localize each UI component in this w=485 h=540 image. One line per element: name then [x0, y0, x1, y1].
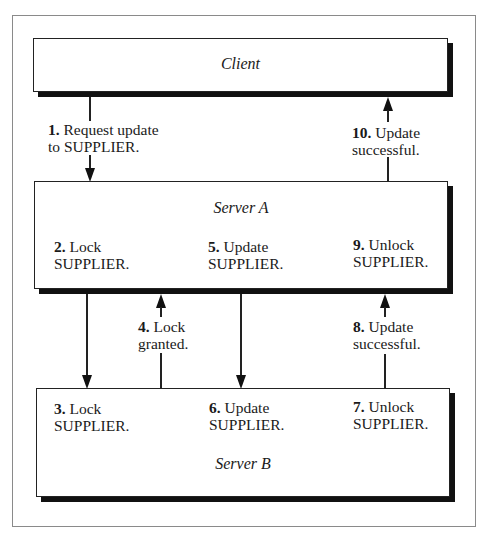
- server-a-step-5: 5. Update SUPPLIER.: [208, 238, 283, 272]
- edge-4-line-top: [160, 307, 162, 317]
- client-title: Client: [34, 55, 447, 73]
- edge-10-line-bottom: [387, 157, 389, 182]
- arrow-down-icon: [82, 375, 92, 389]
- arrow-up-icon: [380, 294, 390, 308]
- arrow-up-icon: [383, 97, 393, 111]
- server-b-step-7: 7. Unlock SUPPLIER.: [353, 398, 428, 432]
- edge-6-line: [240, 294, 242, 375]
- edge-8-line-top: [384, 307, 386, 317]
- edge-1-label: 1. Request update to SUPPLIER.: [48, 121, 159, 155]
- client-node: Client: [33, 38, 448, 92]
- arrow-up-icon: [156, 294, 166, 308]
- server-a-step-2: 2. Lock SUPPLIER.: [54, 238, 129, 272]
- server-b-step-3: 3. Lock SUPPLIER.: [54, 400, 129, 434]
- server-a-title: Server A: [35, 199, 447, 217]
- edge-4-line-bottom: [160, 353, 162, 389]
- edge-1-line-bottom: [89, 155, 91, 169]
- server-a-node: Server A 2. Lock SUPPLIER. 5. Update SUP…: [34, 181, 448, 289]
- edge-3-line: [86, 294, 88, 375]
- edge-10-line-top: [387, 110, 389, 122]
- server-b-node: 3. Lock SUPPLIER. 6. Update SUPPLIER. 7.…: [36, 388, 450, 497]
- edge-10-label: 10. Update successful.: [352, 124, 420, 158]
- server-b-title: Server B: [37, 455, 449, 473]
- edge-1-line-top: [89, 97, 91, 121]
- edge-8-label: 8. Update successful.: [353, 318, 421, 352]
- server-b-step-6: 6. Update SUPPLIER.: [209, 399, 284, 433]
- server-a-step-9: 9. Unlock SUPPLIER.: [353, 236, 428, 270]
- arrow-down-icon: [85, 168, 95, 182]
- arrow-down-icon: [236, 375, 246, 389]
- edge-8-line-bottom: [384, 354, 386, 389]
- edge-4-label: 4. Lock granted.: [138, 318, 188, 352]
